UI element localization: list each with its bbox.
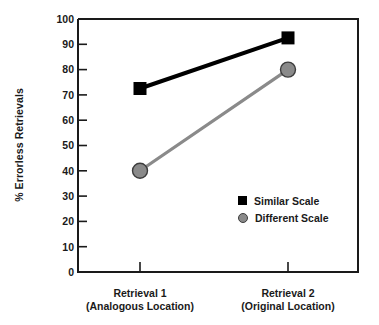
series-line-different-scale bbox=[140, 70, 288, 171]
legend-item-similar-scale: Similar Scale bbox=[238, 192, 329, 209]
x-tick-label-retrieval-2-line2: (Original Location) bbox=[213, 300, 363, 313]
black-square-marker-icon bbox=[238, 196, 247, 205]
series-line-similar-scale bbox=[140, 38, 288, 89]
legend-label-different-scale: Different Scale bbox=[255, 212, 329, 224]
chart-legend: Similar Scale Different Scale bbox=[238, 192, 329, 226]
data-point-similar-scale-retrieval-2 bbox=[282, 31, 295, 44]
chart-container: % Errorless Retrievals 100 90 80 70 60 5… bbox=[0, 0, 379, 325]
plot-area bbox=[0, 0, 379, 325]
data-point-similar-scale-retrieval-1 bbox=[134, 82, 147, 95]
gray-circle-marker-icon bbox=[238, 213, 248, 223]
data-point-different-scale-retrieval-1 bbox=[133, 163, 148, 178]
x-tick-marks bbox=[140, 262, 288, 272]
x-tick-label-retrieval-2: Retrieval 2 (Original Location) bbox=[213, 287, 363, 312]
x-tick-label-retrieval-2-line1: Retrieval 2 bbox=[213, 287, 363, 300]
plot-frame bbox=[78, 19, 358, 272]
x-tick-label-retrieval-1: Retrieval 1 (Analogous Location) bbox=[65, 287, 215, 312]
legend-label-similar-scale: Similar Scale bbox=[254, 195, 319, 207]
y-tick-marks bbox=[78, 44, 87, 246]
x-tick-label-retrieval-1-line1: Retrieval 1 bbox=[65, 287, 215, 300]
data-point-different-scale-retrieval-2 bbox=[281, 62, 296, 77]
legend-item-different-scale: Different Scale bbox=[238, 209, 329, 226]
x-tick-label-retrieval-1-line2: (Analogous Location) bbox=[65, 300, 215, 313]
